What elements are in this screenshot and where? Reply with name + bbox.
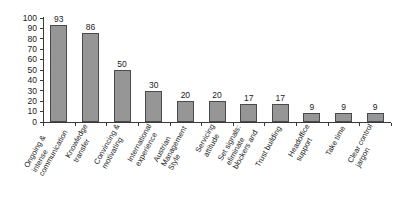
bar[interactable]: 9 (335, 113, 352, 122)
x-axis-tick-mark (264, 123, 265, 126)
y-axis-tick-label: 70 (28, 45, 40, 54)
bar-value-label: 9 (341, 103, 346, 112)
x-axis-tick-mark (106, 123, 107, 126)
bar-slot: 17 (233, 18, 265, 122)
category-label-slot: Convincing &motivating (106, 127, 138, 206)
category-label-slot: Take time (328, 127, 360, 206)
bar-value-label: 50 (117, 60, 126, 69)
category-label-slot: Ongoing &intensecommunication (43, 127, 75, 206)
bar-value-label: 9 (310, 103, 315, 112)
bar-slot: 86 (75, 18, 107, 122)
bar-value-label: 20 (181, 91, 190, 100)
x-axis-tick-mark (296, 123, 297, 126)
y-axis-tick-label: 90 (28, 24, 40, 33)
bar-value-label: 17 (244, 94, 253, 103)
bar[interactable]: 86 (82, 33, 99, 122)
bar-slot: 9 (359, 18, 391, 122)
bar[interactable]: 17 (240, 104, 257, 122)
bar-slot: 30 (138, 18, 170, 122)
x-axis-tick-mark (138, 123, 139, 126)
category-label-slot: Trust building (264, 127, 296, 206)
bar[interactable]: 9 (303, 113, 320, 122)
y-axis-tick-label: 30 (28, 87, 40, 96)
bar[interactable]: 93 (50, 25, 67, 122)
x-axis-tick-mark (359, 123, 360, 126)
bar-value-label: 17 (276, 94, 285, 103)
x-axis-tick-mark (391, 123, 392, 126)
y-axis-tick-label: 60 (28, 55, 40, 64)
y-axis-tick-label: 20 (28, 97, 40, 106)
category-label-slot: AustrianManagementStyle (170, 127, 202, 206)
bar-slot: 20 (201, 18, 233, 122)
y-axis-tick-label: 100 (23, 14, 40, 23)
y-axis-tick-label: 10 (28, 107, 40, 116)
x-axis-tick-mark (328, 123, 329, 126)
bar-value-label: 93 (54, 15, 63, 24)
bar[interactable]: 20 (177, 101, 194, 122)
bar-slot: 17 (264, 18, 296, 122)
bar-value-label: 86 (86, 23, 95, 32)
category-label-line: Take time (324, 125, 347, 158)
bar[interactable]: 9 (367, 113, 384, 122)
bar[interactable]: 17 (272, 104, 289, 122)
x-axis-tick-mark (75, 123, 76, 126)
y-axis-tick-label: 0 (32, 118, 40, 127)
bar-value-label: 30 (149, 81, 158, 90)
bar-slot: 50 (106, 18, 138, 122)
category-label-slot: Headofficesupport (296, 127, 328, 206)
bar-slot: 9 (328, 18, 360, 122)
bar[interactable]: 50 (114, 70, 131, 122)
y-axis-ticks: 1009080706050403020100 (0, 0, 43, 206)
y-axis-tick-label: 50 (28, 66, 40, 75)
y-axis-tick-label: 80 (28, 35, 40, 44)
bar-slot: 93 (43, 18, 75, 122)
bar-value-label: 20 (212, 91, 221, 100)
category-label-slot: Clear controljargon (359, 127, 391, 206)
bar-slot: 20 (170, 18, 202, 122)
y-axis-tick-label: 40 (28, 76, 40, 85)
bar[interactable]: 30 (145, 91, 162, 122)
bar-chart: 1009080706050403020100 93865030202017179… (0, 0, 405, 206)
category-label[interactable]: Take time (324, 125, 347, 158)
bar[interactable]: 20 (209, 101, 226, 122)
x-axis-category-labels: Ongoing &intensecommunicationKnowledgetr… (43, 127, 391, 206)
x-axis-tick-mark (201, 123, 202, 126)
bar-value-label: 9 (373, 103, 378, 112)
bar-slot: 9 (296, 18, 328, 122)
bar-series: 9386503020201717999 (43, 18, 391, 122)
